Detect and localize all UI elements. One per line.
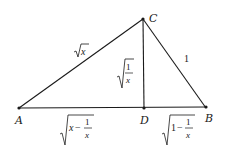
label-ad-sqrt-x-minus-one-over-x: x − 1 x	[60, 115, 94, 145]
segment-cb	[143, 19, 206, 108]
label-db-sqrt-one-minus-one-over-x: 1 − 1 x	[162, 115, 195, 145]
point-b-dot	[204, 105, 207, 108]
label-cd-sqrt-one-over-x: 1 x	[117, 59, 134, 88]
point-b-label: B	[204, 112, 213, 125]
point-a-dot	[17, 106, 20, 109]
svg-text:−: −	[75, 122, 81, 133]
segment-cd	[143, 19, 144, 108]
point-c-dot	[141, 17, 144, 20]
point-a-label: A	[14, 114, 23, 127]
point-d-label: D	[139, 114, 149, 127]
svg-text:1: 1	[186, 117, 191, 127]
svg-text:−: −	[177, 122, 183, 133]
segment-ab	[19, 107, 206, 108]
triangle-diagram: A C D B x 1 1 x x − 1 x 1 − 1 x	[0, 0, 228, 156]
svg-text:x: x	[80, 46, 86, 57]
point-c-label: C	[149, 12, 158, 25]
label-ac-sqrt-x: x	[74, 44, 89, 57]
label-cb-one: 1	[184, 53, 189, 64]
svg-text:1: 1	[85, 117, 90, 127]
svg-text:1: 1	[171, 122, 176, 133]
svg-text:x: x	[185, 130, 190, 140]
svg-text:1: 1	[126, 62, 131, 72]
svg-text:x: x	[68, 122, 74, 133]
svg-text:x: x	[84, 130, 89, 140]
svg-text:x: x	[125, 75, 130, 85]
point-d-dot	[142, 106, 145, 109]
